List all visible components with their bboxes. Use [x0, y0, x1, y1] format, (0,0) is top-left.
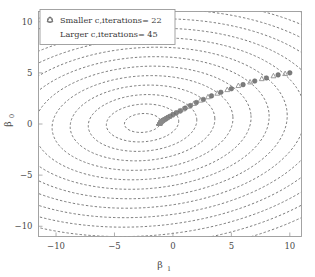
x-tick-label: −5 [108, 241, 121, 251]
svg-text:0: 0 [8, 114, 16, 118]
legend-entry-smaller-c[interactable]: Smaller c,iterations= 22 [47, 15, 161, 25]
legend[interactable]: Smaller c,iterations= 22 Larger c,iterat… [40, 10, 175, 45]
data-point [229, 86, 234, 91]
data-point [259, 76, 264, 80]
y-tick-label: −5 [20, 170, 33, 180]
data-point [225, 87, 230, 91]
x-tick-label: 0 [170, 241, 175, 251]
x-tick-label: 5 [229, 241, 234, 251]
series-smaller-c [159, 71, 292, 124]
x-axis-title: β 1 [157, 259, 171, 273]
x-tick-label: −10 [47, 241, 65, 251]
contour-level-6 [30, 59, 255, 187]
y-tick-label: 0 [27, 119, 32, 129]
contour-level-9 [0, 27, 311, 219]
y-axis-title: β 0 [2, 114, 16, 127]
svg-text:β: β [157, 259, 163, 270]
contour-level-3 [86, 91, 198, 155]
y-tick-label: 5 [27, 68, 32, 78]
y-tick-label: −10 [15, 221, 33, 231]
trajectory-series-group [157, 71, 292, 126]
plot-frame [39, 12, 302, 237]
contour-level-2 [105, 102, 180, 145]
data-point [276, 73, 281, 78]
contour-level-4 [68, 80, 218, 165]
contour-level-5 [49, 70, 236, 177]
data-point [271, 73, 276, 77]
legend-label-0: Smaller c,iterations= 22 [60, 15, 162, 25]
data-point [264, 76, 269, 81]
data-point [241, 82, 246, 87]
x-tick-label: 10 [284, 241, 295, 251]
axes-frame [39, 12, 302, 237]
legend-label-1: Larger c,iterations= 45 [60, 29, 158, 39]
data-point [236, 83, 241, 87]
data-point [288, 71, 293, 76]
svg-text:β: β [2, 121, 13, 127]
contour-level-8 [0, 38, 292, 208]
y-tick-label: 10 [22, 17, 33, 27]
data-point [248, 79, 253, 83]
svg-text:1: 1 [167, 265, 171, 273]
data-point [252, 79, 257, 84]
contour-plot: −10−50510 −10−50510 β 1 β 0 Smaller c,it… [0, 0, 315, 277]
contour-level-7 [11, 48, 273, 197]
contour-level-1 [124, 112, 161, 133]
chart-root: −10−50510 −10−50510 β 1 β 0 Smaller c,it… [0, 0, 315, 277]
